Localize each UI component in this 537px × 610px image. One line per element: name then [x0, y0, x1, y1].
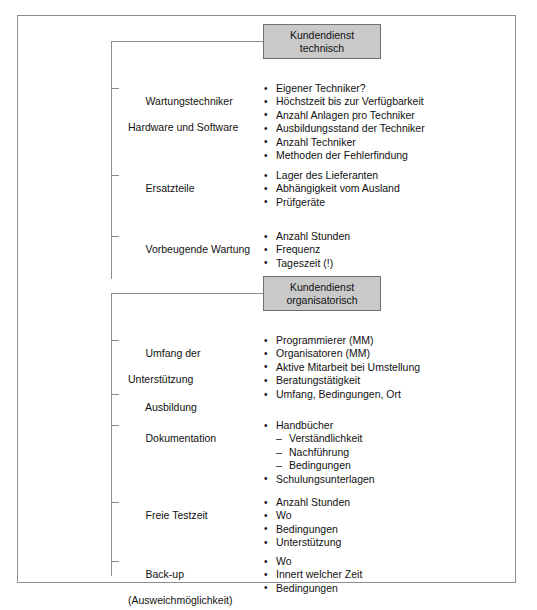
list-item: Innert welcher Zeit	[263, 568, 362, 581]
list-item: Lager des Lieferanten	[263, 169, 400, 182]
connector-tick-row-vorbeugende-wartung	[111, 236, 119, 237]
sub-list-item: Bedingungen	[276, 459, 375, 472]
list-item: Unterstützung	[263, 536, 350, 549]
list-item: Wo	[263, 509, 350, 522]
connector-trunk-group-1	[111, 41, 112, 279]
row-label-vorbeugende-wartung: Vorbeugende Wartung	[128, 230, 250, 269]
list-item: Bedingungen	[263, 582, 362, 595]
list-item: Anzahl Stunden	[263, 230, 350, 243]
header-box-organisatorisch: Kundendienst organisatorisch	[263, 276, 381, 311]
row-label-ersatzteile: Ersatzteile	[128, 169, 195, 208]
bullet-list-back-up: Wo Innert welcher Zeit Bedingungen	[263, 555, 362, 595]
list-item: Prüfgeräte	[263, 196, 400, 209]
header-box-technisch: Kundendienst technisch	[263, 24, 381, 59]
bullet-list-freie-testzeit: Anzahl Stunden Wo Bedingungen Unterstütz…	[263, 496, 350, 550]
list-item: Umfang, Bedingungen, Ort	[263, 388, 401, 401]
diagram-frame: Kundendienst technisch Wartungstechniker…	[17, 15, 516, 583]
connector-tick-row-wartungstechniker	[111, 88, 119, 89]
header-box-organisatorisch-line2: organisatorisch	[264, 294, 380, 307]
connector-tick-row-umfang	[111, 340, 119, 341]
list-item: Tageszeit (!)	[263, 257, 350, 270]
bullet-list-dokumentation: Handbücher Verständlichkeit Nachführung …	[263, 419, 375, 486]
connector-tick-row-back-up	[111, 561, 119, 562]
row-label-umfang-line2: Unterstützung	[128, 373, 200, 386]
list-item: Handbücher	[263, 419, 375, 432]
connector-tick-row-ausbildung	[111, 394, 119, 395]
row-label-ausbildung-line1: Ausbildung	[145, 401, 197, 413]
bullet-list-wartungstechniker: Eigener Techniker? Höchstzeit bis zur Ve…	[263, 82, 425, 162]
list-item: Schulungsunterlagen	[263, 473, 375, 486]
row-label-back-up: Back-up (Ausweichmöglichkeit)	[128, 555, 232, 610]
sub-list-item: Verständlichkeit	[276, 432, 375, 445]
header-box-technisch-line2: technisch	[264, 42, 380, 55]
list-item: Wo	[263, 555, 362, 568]
bullet-list-vorbeugende-wartung: Anzahl Stunden Frequenz Tageszeit (!)	[263, 230, 350, 270]
list-item: Eigener Techniker?	[263, 82, 425, 95]
row-label-umfang-line1: Umfang der	[146, 347, 201, 359]
connector-top-group-1	[111, 41, 264, 42]
bullet-list-ausbildung: Umfang, Bedingungen, Ort	[263, 388, 401, 401]
row-label-dokumentation: Dokumentation	[128, 419, 216, 458]
connector-tick-row-dokumentation	[111, 425, 119, 426]
connector-tick-row-ersatzteile	[111, 175, 119, 176]
list-item: Methoden der Fehlerfindung	[263, 149, 425, 162]
list-item: Aktive Mitarbeit bei Umstellung	[263, 361, 420, 374]
list-item: Beratungstätigkeit	[263, 374, 420, 387]
connector-trunk-group-2	[111, 293, 112, 576]
list-item: Anzahl Stunden	[263, 496, 350, 509]
list-item: Anzahl Anlagen pro Techniker	[263, 109, 425, 122]
sub-list-item: Nachführung	[276, 446, 375, 459]
row-label-dokumentation-line1: Dokumentation	[146, 432, 217, 444]
connector-tick-row-freie-testzeit	[111, 502, 119, 503]
row-label-freie-testzeit-line1: Freie Testzeit	[146, 509, 208, 521]
row-label-ersatzteile-line1: Ersatzteile	[146, 182, 195, 194]
list-item: Ausbildungsstand der Techniker	[263, 122, 425, 135]
bullet-list-ersatzteile: Lager des Lieferanten Abhängigkeit vom A…	[263, 169, 400, 209]
list-item: Höchstzeit bis zur Verfügbarkeit	[263, 95, 425, 108]
bullet-list-umfang: Programmierer (MM) Organisatoren (MM) Ak…	[263, 334, 420, 388]
row-label-back-up-line1: Back-up	[146, 568, 185, 580]
list-item: Frequenz	[263, 243, 350, 256]
row-label-wartungstechniker: Wartungstechniker Hardware und Software	[128, 82, 238, 160]
row-label-back-up-line2: (Ausweichmöglichkeit)	[128, 594, 232, 607]
list-item: Organisatoren (MM)	[263, 347, 420, 360]
row-label-wartungstechniker-line1: Wartungstechniker	[146, 95, 233, 107]
row-label-freie-testzeit: Freie Testzeit	[128, 496, 208, 535]
row-label-wartungstechniker-line2: Hardware und Software	[128, 121, 238, 134]
list-item: Programmierer (MM)	[263, 334, 420, 347]
connector-top-group-2	[111, 293, 264, 294]
row-label-vorbeugende-wartung-line1: Vorbeugende Wartung	[146, 243, 251, 255]
list-item: Abhängigkeit vom Ausland	[263, 182, 400, 195]
list-item: Bedingungen	[263, 523, 350, 536]
list-item: Anzahl Techniker	[263, 136, 425, 149]
header-box-technisch-line1: Kundendienst	[290, 29, 354, 41]
header-box-organisatorisch-line1: Kundendienst	[290, 281, 354, 293]
